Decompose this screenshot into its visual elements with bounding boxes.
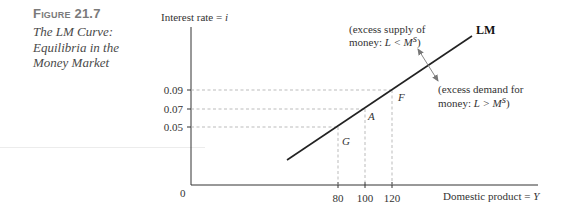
y-axis-label: Interest rate = i: [161, 11, 228, 23]
x-tick-label: 100: [357, 192, 374, 204]
x-tick-label: 80: [333, 192, 345, 204]
y-tick-label: 0.09: [164, 84, 184, 96]
excess-demand-annotation: (excess demand for: [438, 83, 524, 96]
x-tick-label: 120: [384, 192, 401, 204]
point-label-f: F: [397, 91, 405, 103]
double-arrow-icon: [418, 49, 438, 81]
point-label-a: A: [367, 110, 375, 122]
lm-chart: Interest rate = i Domestic product = Y 0…: [0, 0, 561, 221]
point-label-g: G: [342, 135, 350, 147]
y-tick-label: 0.05: [164, 121, 184, 133]
excess-demand-annotation-2: money: L > Ms): [438, 93, 510, 110]
y-tick-label: 0.07: [164, 103, 184, 115]
guide-lines: [191, 90, 392, 185]
origin-label: 0: [180, 187, 186, 199]
lm-label: LM: [476, 23, 495, 37]
x-axis-label: Domestic product = Y: [443, 190, 541, 202]
